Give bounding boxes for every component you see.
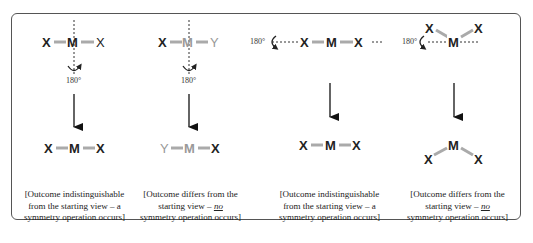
atom-left: X [44,141,53,156]
caption-line: [Outcome differs from the [128,189,253,201]
atom-center: M [448,35,459,50]
bond [461,30,473,37]
atom-left: X [299,138,308,153]
atom-left: Y [160,141,169,156]
rotation-arrow-icon [420,36,424,48]
caption-text: starting view – [425,201,481,211]
caption-panel-4: [Outcome differs from the starting view … [395,189,520,224]
caption-line: symmetry operation occurs] [12,212,137,224]
caption-line: symmetry operation occurs] [128,212,253,224]
caption-line: [Outcome indistinguishable [267,189,392,201]
atom-left: X [158,35,167,50]
caption-line: from the starting view – a [267,201,392,213]
panel-1: X M X 180° X M X [42,20,105,156]
atom-center: M [69,141,80,156]
caption-panel-2: [Outcome differs from the starting view … [128,189,253,224]
rotation-label: 180° [66,76,81,85]
atom-right: X [211,141,220,156]
caption-emphasis: no [481,201,490,211]
caption-emphasis: no [214,201,223,211]
panel-3: 180° X M X X M X [250,34,383,153]
rotation-label: 180° [250,37,265,46]
caption-line: [Outcome differs from the [395,189,520,201]
rotation-label: 180° [181,76,196,85]
caption-panel-1: [Outcome indistinguishable from the star… [12,189,137,224]
atom-center: M [67,35,78,50]
atom-center: M [325,138,336,153]
atom-center: M [182,35,193,50]
atom-center: M [184,141,195,156]
atom-center: M [448,138,459,153]
caption-line: [Outcome indistinguishable [12,189,137,201]
caption-panel-3: [Outcome indistinguishable from the star… [267,189,392,224]
caption-text: starting view – [158,201,214,211]
atom-right: X [352,138,361,153]
bond [436,30,448,37]
atom-right: X [474,21,483,36]
caption-line: starting view – no [128,201,253,213]
atom-center: M [326,35,337,50]
atom-right: Y [210,35,219,50]
atom-right: X [354,35,363,50]
rotation-label: 180° [402,37,417,46]
caption-line: starting view – no [395,201,520,213]
caption-line: symmetry operation occurs] [267,212,392,224]
atom-right: X [96,35,105,50]
atom-right: X [96,141,105,156]
panel-4: 180° X M X X M X [402,21,483,167]
atom-left: X [424,152,433,167]
bond [434,148,447,155]
caption-line: symmetry operation occurs] [395,212,520,224]
bond [461,148,473,155]
atom-right: X [474,152,483,167]
atom-left: X [300,35,309,50]
atom-left: X [425,21,434,36]
panel-2: X M Y 180° Y M X [158,20,220,156]
caption-line: from the starting view – a [12,201,137,213]
atom-left: X [42,35,51,50]
